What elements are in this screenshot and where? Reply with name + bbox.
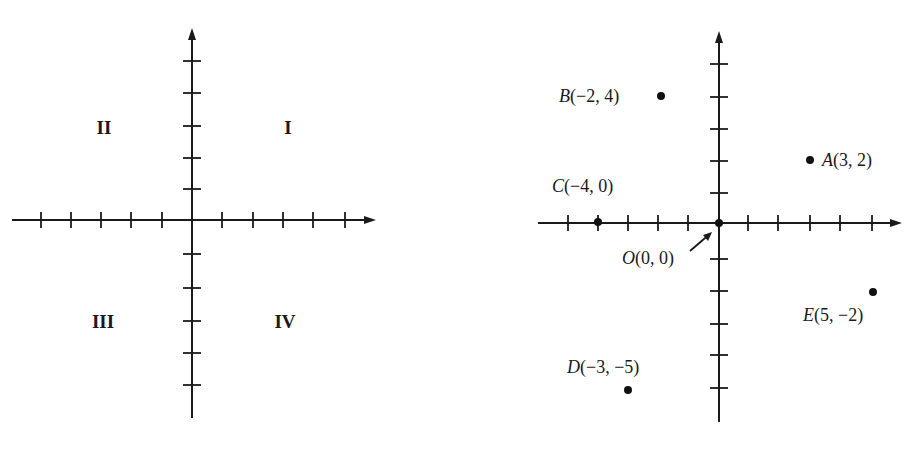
point-coords: (5, −2) [814, 305, 863, 326]
quadrant-label-iv: IV [274, 311, 295, 332]
quadrant-label-i: I [284, 117, 291, 138]
origin-pointer-arrow [690, 236, 708, 252]
point-name: B [559, 86, 570, 106]
point-d-label: D(−3, −5) [566, 357, 639, 378]
right-x-arrow-icon [890, 219, 902, 227]
point-b-label: B(−2, 4) [559, 86, 619, 107]
point-name: D [566, 357, 580, 377]
point-a-label: A(3, 2) [821, 150, 872, 171]
point-d-marker [624, 386, 632, 394]
points-plane: A(3, 2)B(−2, 4)C(−4, 0)D(−3, −5)E(5, −2)… [538, 31, 902, 422]
figure: IIIIIIIV A(3, 2)B(−2, 4)C(−4, 0)D(−3, −5… [0, 0, 915, 452]
point-c-label: C(−4, 0) [552, 176, 613, 197]
left-x-arrow-icon [364, 216, 376, 224]
point-coords: (3, 2) [833, 150, 872, 171]
point-a-marker [806, 156, 814, 164]
point-o-marker [715, 219, 723, 227]
quadrant-label-ii: II [97, 117, 112, 138]
point-coords: (−3, −5) [580, 357, 639, 378]
point-c-marker [594, 218, 602, 226]
point-name: O [622, 248, 635, 268]
right-y-arrow-icon [715, 31, 723, 43]
point-o-label: O(0, 0) [622, 248, 674, 269]
point-coords: (0, 0) [635, 248, 674, 269]
point-b-marker [657, 92, 665, 100]
quadrant-plane: IIIIIIIV [12, 28, 376, 418]
point-e-marker [869, 288, 877, 296]
left-y-arrow-icon [188, 28, 196, 40]
point-name: E [802, 305, 814, 325]
point-coords: (−2, 4) [570, 86, 619, 107]
point-coords: (−4, 0) [564, 176, 613, 197]
quadrant-label-iii: III [92, 311, 114, 332]
point-e-label: E(5, −2) [802, 305, 863, 326]
